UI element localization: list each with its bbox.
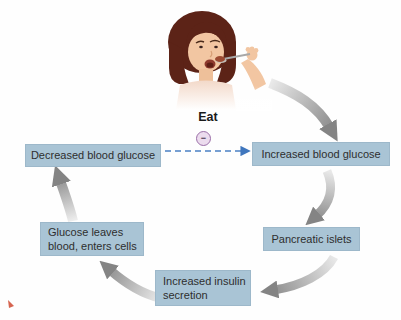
arrow-islets-to-insulin: [274, 257, 334, 290]
arrow-glucose-leaves-to-decreased: [60, 180, 73, 221]
negative-feedback-minus-badge: −: [196, 131, 211, 146]
box-label: Increased insulin secretion: [163, 274, 250, 303]
box-label: Glucose leaves blood, enters cells: [48, 225, 143, 254]
diagram-canvas: Eat − Decreased blood glucose Increased …: [0, 0, 401, 320]
arrow-eat-to-increased: [270, 83, 330, 128]
box-pancreatic-islets: Pancreatic islets: [263, 227, 360, 251]
box-decreased-blood-glucose: Decreased blood glucose: [25, 144, 161, 167]
red-annotation-mark: [5, 298, 19, 312]
box-label: Decreased blood glucose: [31, 148, 155, 162]
box-increased-insulin-secretion: Increased insulin secretion: [155, 270, 251, 306]
person-eating-illustration: [152, 6, 272, 111]
arrow-increased-to-islets: [316, 171, 331, 216]
arm: [241, 59, 266, 90]
eat-label: Eat: [178, 110, 238, 124]
box-glucose-leaves-blood: Glucose leaves blood, enters cells: [40, 222, 144, 256]
minus-symbol: −: [201, 134, 206, 143]
food-on-spoon: [215, 56, 225, 62]
box-label: Increased blood glucose: [261, 147, 380, 161]
arrow-insulin-to-glucose-leaves: [110, 270, 160, 298]
box-increased-blood-glucose: Increased blood glucose: [252, 142, 390, 166]
box-label: Pancreatic islets: [271, 232, 351, 246]
woman-figure: [168, 11, 272, 111]
